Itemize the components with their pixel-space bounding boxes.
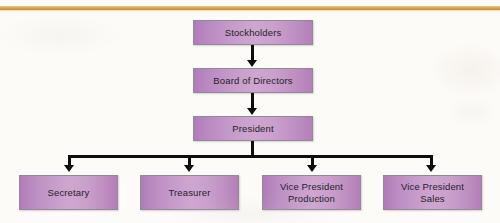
node-vp-production-label: Vice President Production (280, 181, 343, 204)
org-chart-canvas: Stockholders Board of Directors Presiden… (0, 0, 500, 223)
arrowhead-treasurer-icon (184, 165, 194, 172)
arrowhead-board-icon (247, 60, 257, 67)
node-vp-sales-label: Vice President Sales (401, 181, 464, 204)
node-secretary[interactable]: Secretary (19, 175, 118, 210)
node-board-of-directors-label: Board of Directors (213, 75, 292, 87)
node-president-label: President (232, 123, 273, 135)
node-stockholders-label: Stockholders (225, 27, 282, 39)
arrowhead-president-icon (247, 108, 257, 115)
node-treasurer[interactable]: Treasurer (140, 175, 239, 210)
node-president[interactable]: President (193, 116, 313, 141)
node-vp-production[interactable]: Vice President Production (262, 175, 361, 210)
node-secretary-label: Secretary (47, 187, 89, 199)
node-vp-sales[interactable]: Vice President Sales (383, 175, 482, 210)
node-treasurer-label: Treasurer (168, 187, 210, 199)
node-board-of-directors[interactable]: Board of Directors (193, 68, 313, 93)
arrowhead-vp-production-icon (307, 165, 317, 172)
arrowhead-vp-sales-icon (426, 165, 436, 172)
connector-president-to-bus (251, 141, 254, 156)
arrowhead-secretary-icon (64, 165, 74, 172)
top-gold-rule-shadow (0, 10, 500, 12)
node-stockholders[interactable]: Stockholders (193, 20, 313, 45)
connector-horizontal-bus (68, 155, 433, 158)
